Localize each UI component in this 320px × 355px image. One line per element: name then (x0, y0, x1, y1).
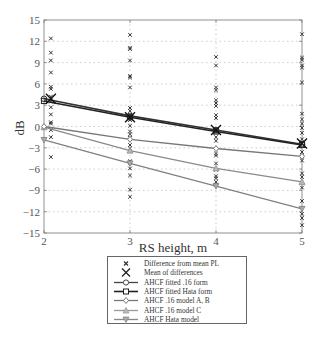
x-axis-ticks: 2345 (41, 20, 305, 247)
diamond-marker-icon (214, 146, 219, 152)
x-marker-icon (49, 87, 53, 91)
chart-legend: Difference from mean PL Mean of differen… (107, 256, 247, 324)
series-triangle-down (41, 137, 305, 211)
circle-line-icon (108, 278, 144, 287)
x-marker-icon (49, 155, 53, 159)
chart-plot: 15129630−3−6−9−12−15 2345 dB RS height, … (0, 0, 320, 256)
x-marker-icon (49, 135, 53, 139)
diamond-marker-icon (128, 136, 133, 142)
x-marker-icon (214, 88, 218, 92)
x-marker-icon (49, 59, 53, 63)
x-marker-icon (108, 259, 144, 268)
series-diamond (42, 124, 305, 160)
diamond-marker-icon (300, 153, 305, 159)
square-line-icon (108, 287, 144, 296)
x-marker-icon (49, 71, 53, 75)
x-tick-label: 3 (127, 235, 133, 247)
x-marker-icon (214, 104, 218, 108)
legend-label: Mean of differences (144, 268, 203, 277)
legend-label: AHCF Hata model (144, 315, 199, 324)
y-tick-label: 3 (35, 99, 41, 111)
model-lines (41, 96, 305, 212)
x-marker-icon (49, 106, 53, 110)
legend-label: AHCF fitted Hata form (144, 287, 212, 296)
grid-lines (44, 20, 302, 233)
triangle-down-marker-icon (299, 206, 305, 212)
legend-label: Difference from mean PL (144, 259, 219, 268)
legend-item-16-c: AHCF .16 model C (108, 305, 246, 314)
x-marker-icon (128, 188, 132, 192)
triangle-down-line-icon (108, 315, 144, 324)
x-marker-icon (214, 64, 218, 68)
y-axis-label: dB (12, 120, 27, 136)
plot-frame (44, 20, 302, 233)
y-tick-label: −12 (23, 206, 40, 218)
y-tick-label: −15 (23, 227, 41, 239)
legend-item-fitted-16: AHCF fitted .16 form (108, 278, 246, 287)
y-tick-label: 6 (35, 78, 41, 90)
x-marker-icon (49, 37, 53, 41)
legend-item-hata: AHCF Hata model (108, 315, 246, 324)
x-marker-icon (49, 113, 53, 117)
y-tick-label: 12 (29, 35, 40, 47)
large-x-marker-icon (108, 268, 144, 277)
y-tick-label: 15 (29, 14, 41, 26)
x-marker-icon (214, 154, 218, 158)
x-tick-label: 4 (213, 235, 219, 247)
legend-item-mean: Mean of differences (108, 268, 246, 277)
y-tick-label: −3 (28, 142, 40, 154)
y-tick-label: 9 (35, 57, 41, 69)
legend-item-difference: Difference from mean PL (108, 259, 246, 268)
x-marker-icon (214, 177, 218, 181)
x-marker-icon (49, 51, 53, 55)
y-tick-label: −9 (28, 184, 40, 196)
x-marker-icon (128, 109, 132, 113)
legend-item-fitted-hata: AHCF fitted Hata form (108, 287, 246, 296)
difference-scatter-points (49, 32, 304, 227)
legend-label: AHCF fitted .16 form (144, 278, 208, 287)
legend-label: AHCF .16 model C (144, 306, 201, 315)
y-tick-label: 0 (35, 121, 41, 133)
x-axis-label: RS height, m (139, 240, 207, 255)
triangle-up-line-icon (108, 306, 144, 315)
x-tick-label: 5 (299, 235, 305, 247)
x-marker-icon (214, 55, 218, 59)
y-tick-label: −6 (28, 163, 40, 175)
x-tick-label: 2 (41, 235, 47, 247)
legend-label: AHCF .16 model A, B (144, 296, 210, 305)
diamond-line-icon (108, 296, 144, 305)
legend-item-16-ab: AHCF .16 model A, B (108, 296, 246, 305)
